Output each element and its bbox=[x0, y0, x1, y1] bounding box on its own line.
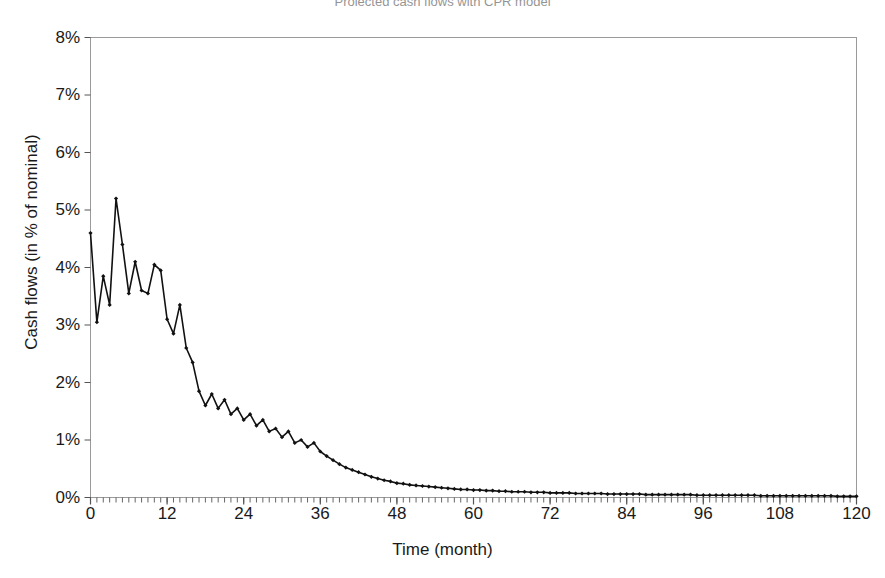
plot-area bbox=[0, 0, 885, 578]
chart-figure: Projected cash flows with CPR model Cash… bbox=[0, 0, 885, 578]
y-axis-major-ticks bbox=[85, 38, 91, 498]
plot-frame bbox=[91, 38, 857, 498]
